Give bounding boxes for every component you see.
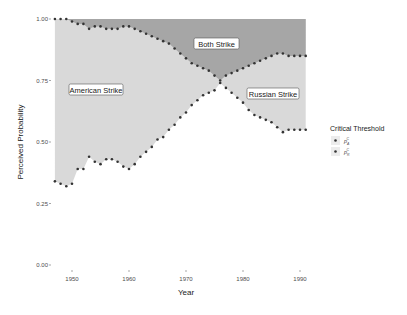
- data-point: [133, 28, 136, 31]
- region-label-both: Both Strike: [194, 38, 239, 49]
- data-point: [105, 28, 108, 31]
- data-point: [247, 109, 250, 112]
- data-point: [162, 136, 165, 139]
- data-point: [236, 69, 239, 72]
- legend-entry-prc: pRC: [331, 147, 350, 157]
- data-point: [213, 74, 216, 77]
- data-point: [179, 116, 182, 119]
- data-point: [99, 25, 102, 28]
- data-point: [265, 57, 268, 60]
- data-point: [94, 160, 97, 163]
- data-point: [65, 18, 68, 21]
- data-point: [253, 62, 256, 65]
- data-point: [139, 30, 142, 33]
- data-point: [190, 62, 193, 65]
- data-point: [99, 163, 102, 166]
- y-tick-label: 1.00: [36, 16, 48, 22]
- data-point: [59, 18, 62, 21]
- data-point: [59, 183, 62, 186]
- x-tick-label: 1990: [293, 276, 307, 282]
- data-point: [111, 28, 114, 31]
- data-point: [76, 168, 79, 171]
- x-tick-label: 1980: [236, 276, 250, 282]
- data-point: [145, 151, 148, 154]
- region-label-russian: Russian Strike: [247, 88, 299, 99]
- data-point: [287, 128, 290, 131]
- y-axis-title: Perceived Probability: [16, 104, 25, 179]
- data-point: [293, 55, 296, 58]
- data-point: [185, 57, 188, 60]
- data-point: [82, 168, 85, 171]
- data-point: [156, 138, 159, 141]
- data-point: [202, 67, 205, 70]
- x-axis: 19501960197019801990: [65, 270, 307, 282]
- data-point: [236, 96, 239, 99]
- data-point: [265, 119, 268, 122]
- data-point: [196, 99, 199, 102]
- data-point: [128, 168, 131, 171]
- y-axis: 0.000.250.500.751.00: [36, 16, 51, 268]
- data-point: [133, 163, 136, 166]
- data-point: [219, 82, 222, 85]
- data-point: [202, 94, 205, 97]
- y-tick-label: 0.50: [36, 139, 48, 145]
- data-point: [304, 128, 307, 131]
- svg-text:pRC: pRC: [343, 148, 350, 157]
- data-point: [225, 87, 228, 90]
- data-point: [168, 128, 171, 131]
- x-tick-label: 1960: [122, 276, 136, 282]
- data-point: [270, 55, 273, 58]
- data-point: [304, 55, 307, 58]
- data-point: [230, 72, 233, 75]
- plot-regions: [55, 19, 306, 186]
- x-axis-title: Year: [178, 288, 195, 297]
- x-tick-label: 1970: [179, 276, 193, 282]
- y-tick-label: 0.00: [36, 262, 48, 268]
- region-label-american: American Strike: [69, 84, 123, 95]
- data-point: [145, 32, 148, 35]
- point-marker-icon: [334, 139, 337, 142]
- data-point: [173, 47, 176, 50]
- data-point: [287, 55, 290, 58]
- legend: Critical Threshold pAC pRC: [330, 125, 384, 157]
- both-strike-label: Both Strike: [198, 40, 235, 49]
- data-point: [162, 40, 165, 43]
- data-point: [173, 123, 176, 126]
- data-point: [259, 60, 262, 63]
- data-point: [122, 25, 125, 28]
- data-point: [88, 28, 91, 31]
- data-point: [225, 74, 228, 77]
- data-point: [128, 25, 131, 28]
- data-point: [259, 116, 262, 119]
- data-point: [139, 155, 142, 158]
- data-point: [65, 185, 68, 188]
- data-point: [122, 165, 125, 168]
- point-marker-icon: [334, 150, 337, 153]
- data-point: [247, 64, 250, 67]
- legend-title: Critical Threshold: [330, 125, 384, 132]
- y-tick-label: 0.75: [36, 78, 48, 84]
- x-tick-label: 1950: [65, 276, 79, 282]
- data-point: [190, 104, 193, 107]
- russian-strike-label: Russian Strike: [249, 90, 297, 99]
- data-point: [71, 20, 74, 23]
- data-point: [76, 23, 79, 26]
- data-point: [88, 155, 91, 158]
- data-point: [111, 158, 114, 161]
- data-point: [270, 121, 273, 124]
- data-point: [54, 180, 57, 183]
- data-point: [219, 79, 222, 82]
- data-point: [213, 89, 216, 92]
- threshold-chart: 0.000.250.500.751.00 1950196019701980199…: [0, 0, 407, 315]
- data-point: [242, 101, 245, 104]
- data-point: [151, 35, 154, 38]
- data-point: [293, 128, 296, 131]
- american-strike-label: American Strike: [70, 86, 123, 95]
- data-point: [116, 160, 119, 163]
- data-point: [282, 131, 285, 134]
- data-point: [230, 92, 233, 95]
- data-point: [299, 55, 302, 58]
- data-point: [156, 37, 159, 40]
- data-point: [94, 25, 97, 28]
- data-point: [105, 158, 108, 161]
